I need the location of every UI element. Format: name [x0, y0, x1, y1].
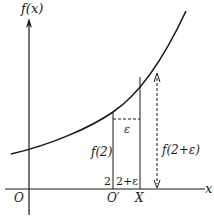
function-curve: [11, 11, 186, 154]
x-point-label: X: [134, 191, 144, 205]
y-axis-label: f(x): [20, 1, 43, 16]
o-prime-label: O′: [107, 191, 120, 205]
tick-label-2-plus-eps: 2+ε: [116, 175, 138, 188]
f2-label: f(2): [90, 145, 113, 159]
epsilon-label: ε: [124, 123, 130, 136]
x-axis-label: x: [205, 181, 213, 196]
tick-label-2: 2: [104, 175, 111, 188]
function-graph-diagram: f(x) x O O′ X 2 2+ε f(2) f(2+ε) ε: [0, 0, 214, 220]
origin-label: O: [14, 191, 24, 205]
f2eps-label: f(2+ε): [161, 143, 200, 157]
